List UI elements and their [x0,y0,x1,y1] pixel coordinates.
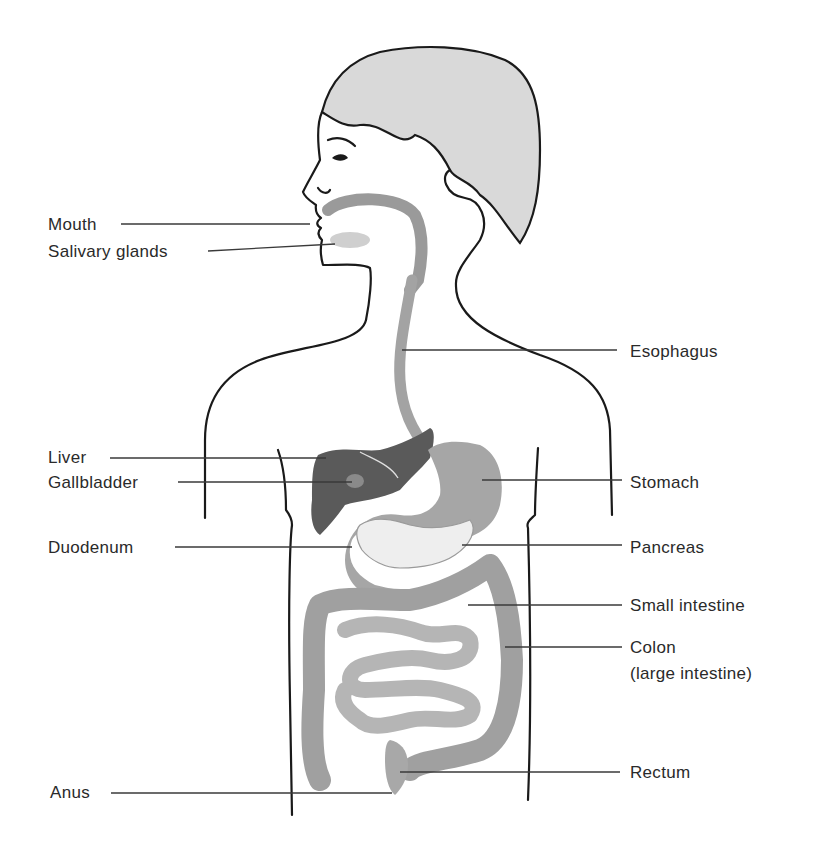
salivary-glands [330,232,370,248]
label-mouth: Mouth [48,215,97,234]
leader-lines [110,224,622,793]
label-anus: Anus [50,783,90,802]
face-outline [303,112,371,320]
label-liver: Liver [48,448,86,467]
label-duodenum: Duodenum [48,538,134,557]
small-intestine [343,624,473,725]
label-small-intestine: Small intestine [630,596,745,615]
label-pancreas: Pancreas [630,538,704,557]
label-salivary-glands: Salivary glands [48,242,168,261]
label-rectum: Rectum [630,763,690,782]
digestive-system-diagram: Mouth Salivary glands Liver Gallbladder … [0,0,839,866]
label-stomach: Stomach [630,473,699,492]
gallbladder [346,474,364,488]
nostril [318,188,330,193]
label-colon: Colon [630,638,676,657]
waist-right [527,448,538,800]
pancreas [357,519,473,568]
label-colon-subtitle: (large intestine) [630,664,752,683]
eye [332,154,348,160]
waist-left [278,450,292,815]
eyebrow [328,138,355,146]
esophagus [400,280,428,450]
colon [312,565,512,780]
label-esophagus: Esophagus [630,342,718,361]
rectum [385,740,408,795]
label-gallbladder: Gallbladder [48,473,138,492]
